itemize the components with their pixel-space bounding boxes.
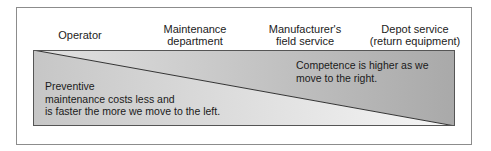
- competence-note-line1: Competence is higher as we: [296, 59, 429, 72]
- depot-label-line1: Depot service: [355, 23, 475, 35]
- cost-note-line1: Preventive: [45, 80, 220, 93]
- maintenance-label-line2: department: [140, 35, 250, 47]
- competence-note: Competence is higher as we move to the r…: [296, 59, 429, 84]
- column-label-maintenance-department: Maintenance department: [140, 23, 250, 47]
- competence-note-line2: move to the right.: [296, 72, 429, 85]
- maintenance-label-line1: Maintenance: [140, 23, 250, 35]
- cost-note: Preventive maintenance costs less and is…: [45, 80, 220, 118]
- tradeoff-diagram: Competence is higher as we move to the r…: [33, 50, 455, 126]
- depot-label-line2: (return equipment): [355, 35, 475, 47]
- operator-label: Operator: [58, 29, 101, 41]
- manufacturer-label-line1: Manufacturer's: [250, 23, 360, 35]
- column-label-manufacturers-field-service: Manufacturer's field service: [250, 23, 360, 47]
- column-label-depot-service: Depot service (return equipment): [355, 23, 475, 47]
- cost-note-line3: is faster the more we move to the left.: [45, 105, 220, 118]
- cost-note-line2: maintenance costs less and: [45, 93, 220, 106]
- column-label-operator: Operator: [30, 29, 130, 41]
- manufacturer-label-line2: field service: [250, 35, 360, 47]
